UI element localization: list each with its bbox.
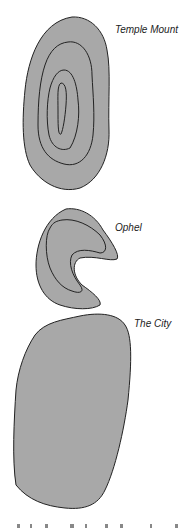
temple-mount-region [23,17,109,190]
ophel-region [36,209,118,309]
ophel-label: Ophel [115,222,142,233]
the-city-label: The City [134,318,171,329]
cropped-caption-text [17,524,178,528]
map-canvas [0,0,187,528]
the-city-region [14,314,131,508]
temple-mount-label: Temple Mount [115,24,178,35]
